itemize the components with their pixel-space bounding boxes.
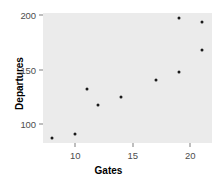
y-tick-mark — [39, 124, 43, 125]
data-point — [97, 103, 100, 106]
data-point — [177, 70, 180, 73]
y-tick-label: 200 — [20, 10, 36, 21]
data-point — [51, 136, 54, 139]
x-tick-mark — [75, 143, 76, 147]
data-point — [200, 20, 203, 23]
x-axis: Gates 101520 — [0, 143, 217, 180]
scatter-plot-figure: Departures 100150200 Gates 101520 — [0, 0, 217, 180]
x-tick-label: 15 — [127, 150, 137, 161]
x-tick-mark — [190, 143, 191, 147]
data-point — [120, 96, 123, 99]
x-axis-title: Gates — [0, 165, 217, 176]
data-point — [85, 88, 88, 91]
x-tick-mark — [132, 143, 133, 147]
x-tick-label: 20 — [185, 150, 195, 161]
data-point — [74, 133, 77, 136]
y-tick-mark — [39, 69, 43, 70]
y-tick-label: 100 — [20, 119, 36, 130]
x-tick-label: 10 — [70, 150, 80, 161]
y-tick-mark — [39, 15, 43, 16]
data-point — [177, 17, 180, 20]
y-tick-label: 150 — [20, 64, 36, 75]
data-point — [154, 78, 157, 81]
data-point — [200, 49, 203, 52]
plot-panel — [43, 13, 212, 143]
